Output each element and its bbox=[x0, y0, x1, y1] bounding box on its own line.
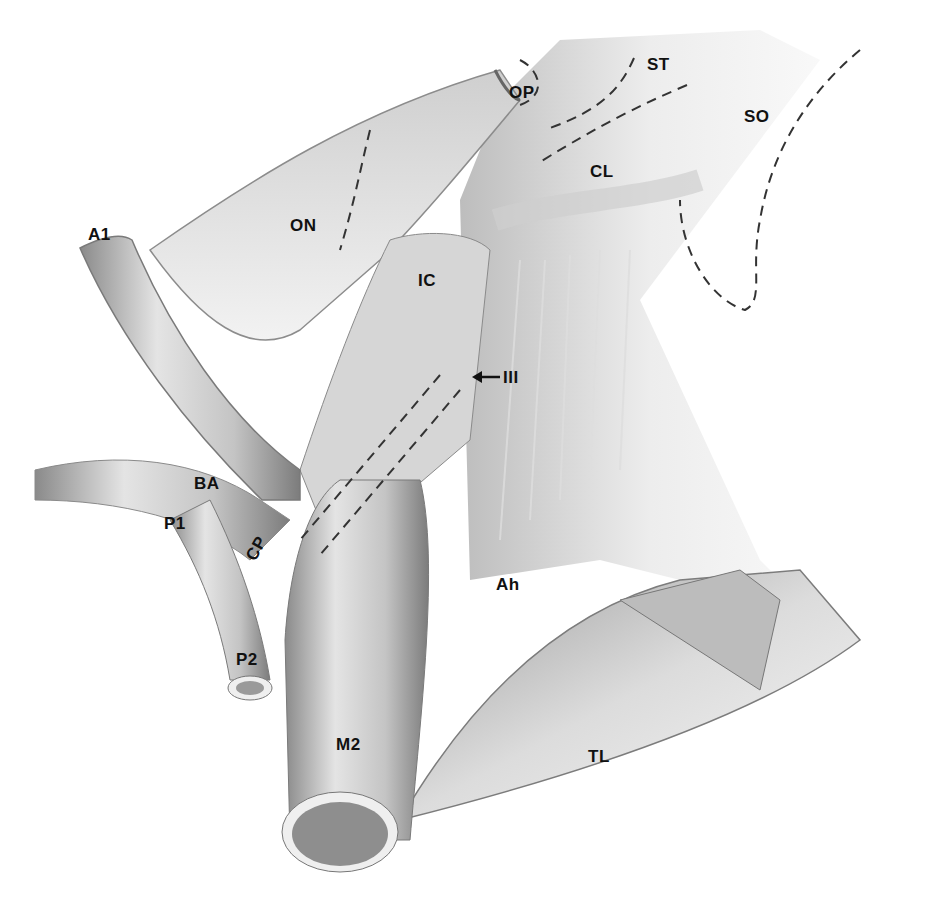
label-ah: Ah bbox=[496, 576, 520, 593]
label-st: ST bbox=[647, 56, 670, 73]
label-m2: M2 bbox=[336, 736, 361, 753]
label-op: OP bbox=[509, 84, 535, 101]
label-p1: P1 bbox=[164, 515, 186, 532]
label-p2: P2 bbox=[236, 651, 258, 668]
m2-vessel bbox=[282, 480, 429, 872]
label-a1: A1 bbox=[88, 226, 111, 243]
illustration-canvas bbox=[0, 0, 929, 898]
label-ic: IC bbox=[418, 272, 436, 289]
lateral-wall bbox=[460, 30, 840, 640]
temporal-lobe bbox=[400, 570, 860, 820]
label-so: SO bbox=[744, 108, 770, 125]
label-tl: TL bbox=[588, 748, 610, 765]
anatomical-figure: OP ST SO CL A1 ON IC III BA P1 CP Ah P2 … bbox=[0, 0, 929, 898]
label-on: ON bbox=[290, 217, 317, 234]
label-iii: III bbox=[503, 369, 519, 386]
label-cl: CL bbox=[590, 163, 614, 180]
label-ba: BA bbox=[194, 475, 220, 492]
